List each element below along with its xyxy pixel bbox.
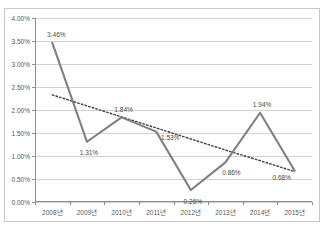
x-tick-mark [70, 202, 71, 205]
x-axis-label: 2010년 [111, 207, 131, 217]
x-tick-mark [277, 202, 278, 205]
x-axis-label: 2012년 [181, 207, 201, 217]
x-tick-mark [35, 202, 36, 205]
x-axis-label: 2011년 [146, 207, 166, 217]
y-axis-label: 0.50% [12, 176, 30, 183]
data-point-label: 0.26% [184, 198, 202, 205]
x-axis-label: 2015년 [284, 207, 304, 217]
plot-area: 0.00%0.50%1.00%1.50%2.00%2.50%3.00%3.50%… [35, 18, 312, 202]
y-axis-label: 2.00% [12, 107, 30, 114]
chart-frame: 0.00%0.50%1.00%1.50%2.00%2.50%3.00%3.50%… [4, 8, 320, 222]
y-axis-label: 3.50% [12, 38, 30, 45]
y-axis-label: 1.50% [12, 130, 30, 137]
data-point-label: 1.31% [80, 148, 98, 155]
series-lines [35, 18, 312, 202]
data-point-label: 1.94% [253, 100, 271, 107]
chart-screenshot: 0.00%0.50%1.00%1.50%2.00%2.50%3.00%3.50%… [0, 0, 327, 231]
data-point-label: 1.53% [161, 133, 179, 140]
x-axis-label: 2009년 [77, 207, 97, 217]
y-axis-label: 4.00% [12, 15, 30, 22]
x-axis-label: 2014년 [250, 207, 270, 217]
y-axis-label: 3.00% [12, 61, 30, 68]
x-tick-mark [312, 202, 313, 205]
y-axis-label: 2.50% [12, 84, 30, 91]
x-tick-mark [139, 202, 140, 205]
series-line-path [52, 43, 294, 190]
x-tick-mark [104, 202, 105, 205]
x-tick-mark [174, 202, 175, 205]
x-axis-label: 2008년 [42, 207, 62, 217]
data-point-label: 0.86% [222, 169, 240, 176]
x-tick-mark [243, 202, 244, 205]
data-point-label: 3.46% [47, 30, 65, 37]
chart-title-strip [0, 0, 327, 7]
x-axis-label: 2013년 [215, 207, 235, 217]
y-axis-label: 0.00% [12, 199, 30, 206]
y-axis-label: 1.00% [12, 153, 30, 160]
data-point-label: 1.84% [114, 106, 132, 113]
data-point-label: 0.68% [272, 173, 290, 180]
x-tick-mark [208, 202, 209, 205]
